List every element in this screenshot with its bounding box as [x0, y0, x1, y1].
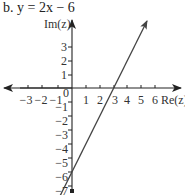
chart-area: −3 −2 −1 1 2 3 4 5 6 0 Re(z) 3 2 1 −1 −2… [0, 0, 185, 195]
y-axis-bottom-marker [70, 189, 74, 193]
y-tick-label: −4 [55, 142, 68, 156]
x-tick-label: 6 [152, 93, 158, 107]
x-tick-label: 4 [124, 93, 130, 107]
x-tick-labels: −3 −2 −1 1 2 3 4 5 6 [20, 93, 158, 107]
y-tick-labels: 3 2 1 −1 −2 −3 −4 −5 −6 −7 [55, 40, 68, 195]
x-tick-label: 2 [97, 93, 103, 107]
y-tick-label: −5 [55, 156, 68, 170]
y-tick-label: 3 [61, 40, 67, 54]
x-axis-label: Re(z) [161, 93, 185, 107]
x-tick-label: −3 [20, 93, 33, 107]
y-tick-label: 1 [61, 68, 67, 82]
y-axis-label: Im(z) [44, 17, 71, 31]
y-tick-label: −1 [55, 100, 68, 114]
y-tick-label: 2 [61, 54, 67, 68]
x-tick-label: −2 [35, 93, 48, 107]
x-tick-label: 5 [138, 93, 144, 107]
origin-label: 0 [63, 86, 69, 100]
y-tick-label: −2 [55, 114, 68, 128]
x-tick-label: 1 [83, 93, 89, 107]
y-ticks [68, 47, 72, 186]
line-y-equals-2x-minus-6 [60, 21, 147, 195]
x-tick-label: 3 [112, 93, 118, 107]
y-tick-label: −3 [55, 128, 68, 142]
y-tick-label: −6 [55, 170, 68, 184]
